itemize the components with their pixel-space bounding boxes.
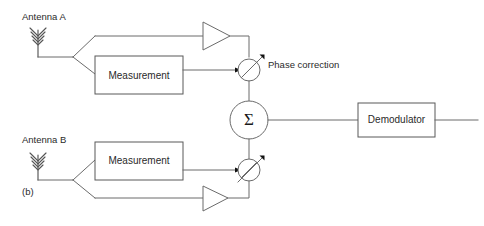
wire-split-a-down xyxy=(73,57,95,74)
wire-amplifier-top-out xyxy=(230,36,249,57)
antenna-a-symbol xyxy=(30,28,46,57)
wire-split-a-up xyxy=(73,36,95,57)
phase-correction-label: Phase correction xyxy=(268,59,339,70)
antenna-a-label: Antenna A xyxy=(22,11,67,22)
measurement-top-label: Measurement xyxy=(108,70,169,81)
wire-split-b-down xyxy=(73,180,95,198)
summing-junction-label: Σ xyxy=(244,110,254,129)
wire-amplifier-bottom-out xyxy=(228,181,249,198)
antenna-b-label: Antenna B xyxy=(22,134,66,145)
amplifier-bottom-icon xyxy=(203,186,228,211)
measurement-bottom-label: Measurement xyxy=(108,155,169,166)
figure-sublabel: (b) xyxy=(22,186,34,197)
amplifier-top-icon xyxy=(203,22,230,50)
diagram-canvas: Measurement Phase correction Σ Demodulat… xyxy=(0,0,484,226)
demodulator-label: Demodulator xyxy=(368,114,426,125)
antenna-b-symbol xyxy=(30,153,46,180)
wire-split-b-up xyxy=(73,160,95,180)
block-diagram: Measurement Phase correction Σ Demodulat… xyxy=(0,0,484,226)
